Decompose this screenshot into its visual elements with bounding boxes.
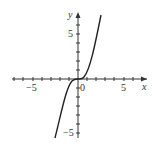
x-tick-label-5: 5: [121, 83, 126, 93]
cubic-function-plot: [0, 0, 156, 149]
x-tick-label-0: 0: [80, 83, 85, 93]
y-axis-label: y: [68, 10, 72, 20]
y-tick-label-neg5: −5: [63, 128, 74, 138]
x-axis-label: x: [142, 82, 146, 92]
y-tick-label-5: 5: [68, 29, 73, 39]
x-tick-label-neg5: −5: [26, 83, 37, 93]
y-axis-arrow-icon: [76, 12, 81, 18]
